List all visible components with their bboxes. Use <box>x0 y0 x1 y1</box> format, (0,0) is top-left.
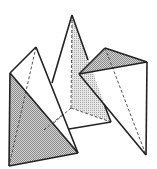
tetrahedra-figure <box>0 0 157 169</box>
middle-tetrahedron <box>48 15 111 129</box>
left-tetrahedron <box>9 47 78 166</box>
